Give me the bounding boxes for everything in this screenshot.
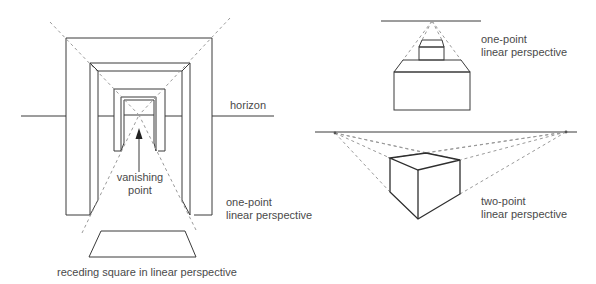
horizon-label: horizon (230, 99, 266, 112)
construction-left-2 (335, 133, 390, 192)
bottom-right-caption-line1: two-point (481, 195, 567, 208)
bottom-right-caption: two-point linear perspective (481, 195, 567, 221)
small-box-top (419, 40, 444, 47)
construction-line-4 (432, 21, 442, 40)
receding-square (89, 231, 196, 257)
top-right-caption-line1: one-point (481, 33, 567, 46)
construction-left-1 (335, 133, 390, 158)
vanishing-point-label-line2: point (112, 184, 168, 197)
small-box-front (419, 47, 444, 60)
bevel-bottom-left (90, 200, 98, 215)
construction-line-3 (422, 21, 432, 40)
top-right-caption-line2: linear perspective (481, 46, 567, 59)
left-caption: one-point linear perspective (226, 196, 312, 222)
bottom-right-caption-line2: linear perspective (481, 208, 567, 221)
construction-right-2 (460, 132, 566, 194)
bevel-top-left (90, 63, 98, 71)
vanishing-point-label: vanishing point (112, 171, 168, 197)
cube-top-face (390, 153, 460, 170)
receding-square-caption: receding square in linear perspective (57, 266, 237, 279)
cube-outline (390, 158, 460, 219)
construction-line-tl (50, 22, 139, 115)
top-right-caption: one-point linear perspective (481, 33, 567, 59)
arrow-up-icon (136, 128, 143, 139)
large-box-top (394, 60, 470, 72)
left-caption-line2: linear perspective (226, 209, 312, 222)
left-caption-line1: one-point (226, 196, 312, 209)
bevel-top-right (182, 63, 190, 71)
vanishing-point-label-line1: vanishing (112, 171, 168, 184)
large-box-front (394, 72, 470, 110)
one-point-box-diagram (381, 21, 481, 110)
bevel-bottom-right (182, 200, 190, 215)
right-vanishing-point (565, 131, 568, 134)
left-vanishing-point (334, 132, 337, 135)
